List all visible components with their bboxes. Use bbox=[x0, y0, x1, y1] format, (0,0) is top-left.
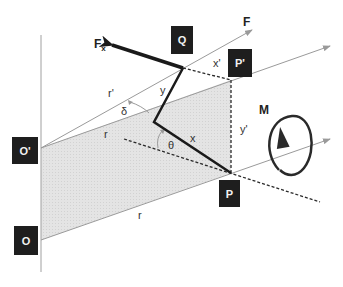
point-q-label: Q bbox=[171, 26, 193, 54]
fx-subscript: x bbox=[101, 44, 105, 53]
moment-arrow bbox=[269, 116, 311, 175]
theta-label: θ bbox=[168, 140, 174, 151]
x-prime-label: x' bbox=[213, 58, 221, 69]
point-o-prime-label: O' bbox=[12, 137, 38, 164]
y-label: y bbox=[160, 85, 166, 96]
r-mid-label: r bbox=[104, 129, 108, 140]
force-fx-label: Fx bbox=[94, 38, 106, 53]
dashed-x-prime bbox=[183, 68, 231, 80]
delta-label: δ bbox=[121, 106, 127, 117]
point-p-label: P bbox=[219, 180, 240, 207]
x-label: x bbox=[190, 133, 196, 144]
r-bottom-label: r bbox=[138, 210, 142, 221]
r-prime-label: r' bbox=[108, 88, 114, 99]
force-f-label: F bbox=[243, 16, 250, 28]
point-p-prime-label: P' bbox=[228, 49, 252, 77]
y-prime-label: y' bbox=[240, 124, 248, 135]
point-o-label: O bbox=[14, 226, 38, 255]
moment-m-label: M bbox=[259, 104, 269, 116]
